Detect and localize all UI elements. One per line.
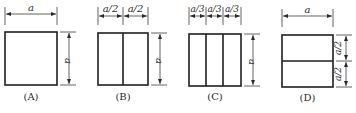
caption-a: (A) [23,91,38,102]
dim-label-top: a/3 [225,4,239,14]
figure-b: a/2 a/2 a (B) [98,3,167,102]
square-c [189,34,241,86]
caption-d: (D) [300,92,316,103]
figure-c: a/3 a/3 a/3 a (C) [189,4,260,102]
square-a [5,32,57,85]
figure-d: a a/2 a/2 (D) [282,4,352,103]
dim-label-top: a/2 [103,3,119,14]
caption-b: (B) [115,91,130,102]
dim-label-side: a/2 [333,67,343,81]
figure-a: a a (A) [5,2,76,102]
dim-label-side: a/2 [333,41,343,55]
dim-label-top: a [305,4,311,15]
dim-label-side: a [63,58,74,64]
dim-label-side: a [247,59,258,65]
dim-label-top: a/3 [207,4,221,14]
dim-label-top: a/2 [128,3,144,14]
diagram-canvas: a a (A) a/2 a/2 a (B) a/3 a/3 a/3 [0,0,356,113]
caption-c: (C) [207,91,223,102]
dim-label-top: a/3 [190,4,204,14]
dim-label-side: a [154,58,165,64]
dim-label-top: a [28,2,34,13]
